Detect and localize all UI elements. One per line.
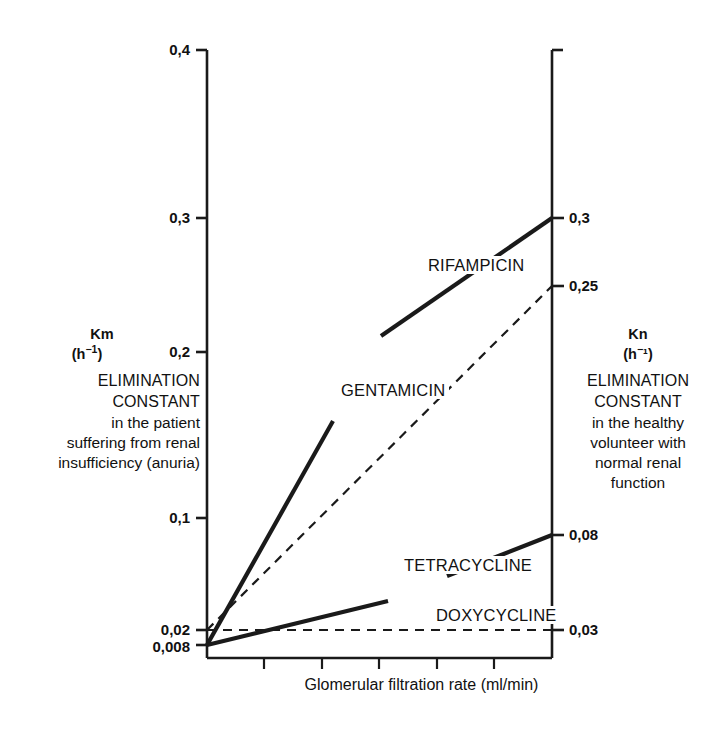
right-axis-symbol: Kn	[556, 326, 720, 343]
series-line-rifampicin	[207, 286, 552, 630]
chart-figure: 0,4 0,3 0,2 0,1 0,02 0,008 0,3 0,25 0,08…	[0, 0, 723, 733]
right-unit-open: (h	[623, 346, 637, 362]
left-tick-0-1: 0,1	[126, 510, 190, 525]
right-desc-line-3: in the healthy	[556, 413, 720, 433]
left-tick-0-3: 0,3	[126, 210, 190, 225]
x-axis-title: Glomerular filtration rate (ml/min)	[0, 676, 723, 694]
right-axis-symbol-text: Kn	[628, 326, 647, 342]
left-axis-unit: (h−1)	[18, 343, 200, 363]
right-desc-line-6: function	[556, 473, 720, 493]
right-axis-unit: (h−¹)	[556, 343, 720, 363]
right-tick-0-08: 0,08	[569, 527, 598, 542]
right-desc-line-2: CONSTANT	[556, 392, 720, 413]
left-unit-exponent: −1	[85, 343, 97, 355]
left-axis-symbol-text: Km	[90, 326, 113, 342]
left-desc-line-3: in the patient	[18, 413, 200, 433]
right-desc-line-5: normal renal	[556, 453, 720, 473]
left-unit-open: (h	[72, 346, 86, 362]
left-desc-line-1: ELIMINATION	[18, 371, 200, 392]
x-axis-ticks	[264, 658, 494, 669]
right-tick-0-3: 0,3	[569, 210, 590, 225]
right-desc-line-1: ELIMINATION	[556, 371, 720, 392]
left-axis-description: Km (h−1) ELIMINATION CONSTANT in the pat…	[18, 326, 200, 473]
left-desc-line-4: suffering from renal	[18, 433, 200, 453]
right-axis-description: Kn (h−¹) ELIMINATION CONSTANT in the hea…	[556, 326, 720, 493]
right-desc-line-4: volunteer with	[556, 433, 720, 453]
left-tick-0-02: 0,02	[116, 622, 190, 637]
right-unit-close: ¹)	[643, 346, 653, 362]
right-tick-0-25: 0,25	[569, 278, 598, 293]
series-label-doxycycline: DOXYCYCLINE	[432, 606, 560, 624]
left-desc-line-2: CONSTANT	[18, 392, 200, 413]
left-unit-close: )	[97, 346, 102, 362]
series-label-tetracycline: TETRACYCLINE	[400, 556, 536, 574]
left-tick-0-008: 0,008	[106, 639, 190, 654]
right-tick-0-03: 0,03	[569, 622, 598, 637]
left-tick-0-4: 0,4	[126, 42, 190, 57]
series-label-rifampicin: RIFAMPICIN	[424, 256, 528, 274]
left-desc-line-5: insufficiency (anuria)	[18, 453, 200, 473]
series-line-gentamicin	[207, 218, 552, 645]
left-axis-symbol: Km	[18, 326, 200, 343]
series-label-gentamicin: GENTAMICIN	[337, 381, 449, 399]
